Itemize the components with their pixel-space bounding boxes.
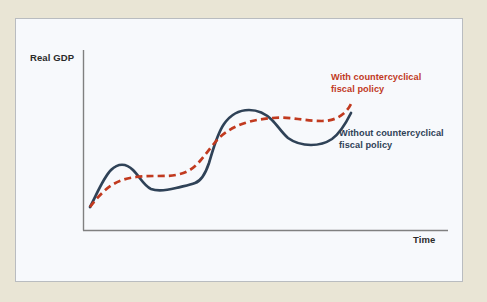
with-policy-annotation: With countercyclical fiscal policy — [331, 72, 421, 95]
without-policy-annotation-line1: Without countercyclical — [339, 128, 444, 138]
with-policy-annotation-line1: With countercyclical — [331, 72, 421, 82]
y-axis-label: Real GDP — [30, 52, 74, 63]
with-policy-annotation-line2: fiscal policy — [331, 84, 384, 94]
without-policy-annotation-line2: fiscal policy — [339, 140, 392, 150]
without-policy-annotation: Without countercyclical fiscal policy — [339, 128, 444, 151]
x-axis-label: Time — [413, 234, 435, 245]
figure-container: Real GDP Time With countercyclical fisca… — [0, 0, 487, 302]
